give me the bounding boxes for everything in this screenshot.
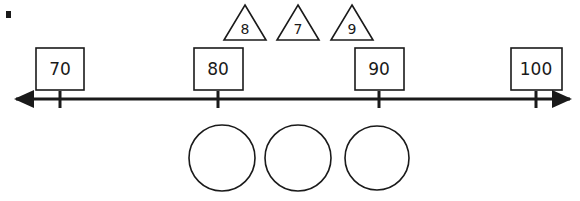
triangle-tile-9[interactable]: 9 (331, 5, 373, 40)
triangle-tile-8-value: 8 (241, 21, 250, 37)
number-line-left-arrowhead (14, 90, 34, 108)
triangle-tile-8[interactable]: 8 (224, 5, 266, 40)
label-box-70-value: 70 (49, 59, 71, 79)
answer-circle-1[interactable] (189, 125, 255, 191)
label-box-80[interactable]: 80 (194, 48, 243, 90)
triangle-tile-7-value: 7 (294, 21, 303, 37)
label-box-90-value: 90 (368, 59, 390, 79)
label-box-70[interactable]: 70 (36, 48, 84, 90)
answer-circle-3[interactable] (345, 126, 409, 190)
bullet-mark (6, 11, 11, 18)
label-box-100-value: 100 (520, 59, 552, 79)
label-box-100[interactable]: 100 (511, 48, 562, 90)
triangle-tile-9-value: 9 (348, 21, 357, 37)
label-box-80-value: 80 (207, 59, 229, 79)
number-line-right-arrowhead (552, 90, 572, 108)
triangle-tile-7[interactable]: 7 (277, 5, 319, 40)
answer-circle-2[interactable] (265, 125, 331, 191)
label-box-90[interactable]: 90 (355, 48, 404, 90)
number-line-worksheet: 70 80 90 100 8 7 9 (0, 0, 580, 201)
